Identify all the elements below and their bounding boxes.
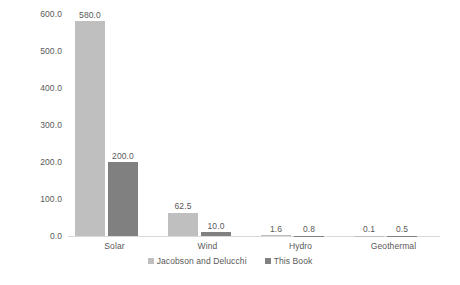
x-axis-category-label: Solar bbox=[68, 241, 161, 251]
bar-value-label: 62.5 bbox=[158, 202, 208, 211]
bar-group-bars: 62.5 10.0 bbox=[161, 14, 254, 236]
legend-label-series-a: Jacobson and Delucchi bbox=[157, 256, 247, 266]
x-axis-category-label: Hydro bbox=[254, 241, 347, 251]
bar-group-geothermal: 0.1 0.5 Geothermal bbox=[347, 14, 440, 236]
legend-swatch-series-a bbox=[148, 258, 154, 264]
legend-item-series-b[interactable]: This Book bbox=[265, 256, 313, 266]
chart-legend: Jacobson and Delucchi This Book bbox=[0, 256, 460, 266]
y-axis-tick-label: 300.0 bbox=[4, 121, 62, 130]
x-axis-category-label: Wind bbox=[161, 241, 254, 251]
bar-series-a[interactable] bbox=[261, 235, 291, 236]
y-axis-tick-label: 0.0 bbox=[4, 232, 62, 241]
bar-value-label: 10.0 bbox=[191, 222, 241, 231]
x-axis-line bbox=[68, 236, 440, 237]
bar-group-wind: 62.5 10.0 Wind bbox=[161, 14, 254, 236]
bar-group-hydro: 1.6 0.8 Hydro bbox=[254, 14, 347, 236]
y-axis-tick-label: 200.0 bbox=[4, 158, 62, 167]
bar-chart: 0.0 100.0 200.0 300.0 400.0 500.0 600.0 … bbox=[0, 0, 460, 285]
bar-group-bars: 580.0 200.0 bbox=[68, 14, 161, 236]
bar-group-solar: 580.0 200.0 Solar bbox=[68, 14, 161, 236]
plot-area: 0.0 100.0 200.0 300.0 400.0 500.0 600.0 … bbox=[68, 14, 440, 236]
bar-group-bars: 1.6 0.8 bbox=[254, 14, 347, 236]
y-axis-tick-label: 100.0 bbox=[4, 195, 62, 204]
y-axis-tick-label: 600.0 bbox=[4, 10, 62, 19]
bar-value-label: 200.0 bbox=[98, 152, 148, 161]
bar-series-a[interactable] bbox=[75, 21, 105, 236]
legend-swatch-series-b bbox=[265, 258, 271, 264]
bar-series-b[interactable] bbox=[108, 162, 138, 236]
y-axis-tick-label: 400.0 bbox=[4, 84, 62, 93]
legend-label-series-b: This Book bbox=[274, 256, 313, 266]
bar-value-label: 0.5 bbox=[377, 225, 427, 234]
legend-item-series-a[interactable]: Jacobson and Delucchi bbox=[148, 256, 247, 266]
y-axis-tick-label: 500.0 bbox=[4, 47, 62, 56]
bar-group-bars: 0.1 0.5 bbox=[347, 14, 440, 236]
bar-series-b[interactable] bbox=[201, 232, 231, 236]
bar-value-label: 580.0 bbox=[65, 11, 115, 20]
x-axis-category-label: Geothermal bbox=[347, 241, 440, 251]
bar-value-label: 0.8 bbox=[284, 225, 334, 234]
